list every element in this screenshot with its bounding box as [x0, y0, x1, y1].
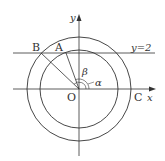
x-axis-arrow-icon: [149, 87, 156, 92]
label-C: C: [134, 91, 142, 104]
label-x: x: [147, 92, 153, 103]
label-y: y: [69, 12, 76, 23]
y-axis-arrow-icon: [77, 14, 82, 21]
segment-OA: [66, 53, 79, 89]
diagram-canvas: B A O C x y y=2 β α: [0, 0, 165, 161]
label-alpha: α: [95, 77, 102, 88]
label-A: A: [54, 41, 64, 54]
label-O: O: [67, 91, 76, 104]
label-y-equals-2: y=2: [130, 42, 151, 53]
alpha-pointer: [88, 82, 94, 84]
segment-OB: [41, 53, 79, 89]
label-beta: β: [81, 66, 88, 77]
label-B: B: [32, 41, 40, 54]
